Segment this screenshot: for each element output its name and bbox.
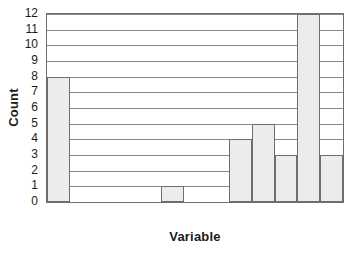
histogram-bar xyxy=(229,139,252,202)
y-tick-label: 5 xyxy=(8,117,38,129)
bars-layer xyxy=(47,14,343,202)
histogram-bar xyxy=(297,14,320,202)
y-tick-label: 2 xyxy=(8,164,38,176)
histogram-bar xyxy=(47,77,70,202)
histogram-chart: Count 0123456789101112 Variable xyxy=(0,0,359,255)
histogram-bar xyxy=(252,124,275,202)
y-tick-label: 3 xyxy=(8,148,38,160)
y-tick-label: 8 xyxy=(8,70,38,82)
plot-area xyxy=(46,13,344,203)
y-tick-label: 4 xyxy=(8,132,38,144)
histogram-bar xyxy=(320,155,343,202)
y-tick-label: 9 xyxy=(8,54,38,66)
y-tick-label: 6 xyxy=(8,101,38,113)
histogram-bar xyxy=(161,186,184,202)
y-tick-label: 11 xyxy=(8,23,38,35)
y-tick-label: 0 xyxy=(8,195,38,207)
histogram-bar xyxy=(275,155,298,202)
y-axis-tick-labels: 0123456789101112 xyxy=(0,0,46,255)
y-tick-label: 10 xyxy=(8,38,38,50)
x-axis-title: Variable xyxy=(45,229,345,244)
y-tick-label: 12 xyxy=(8,7,38,19)
y-tick-label: 1 xyxy=(8,179,38,191)
y-tick-label: 7 xyxy=(8,85,38,97)
